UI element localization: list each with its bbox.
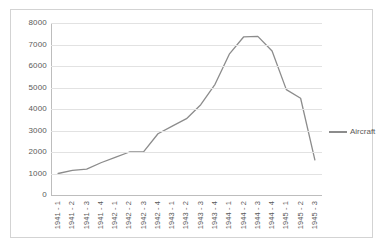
x-tick-label: 1942 - 3 (140, 201, 148, 229)
x-tick-label: 1941 - 1 (54, 201, 62, 229)
gridline-5000 (51, 88, 322, 89)
x-tick-label: 1941 - 3 (83, 201, 91, 229)
x-axis-tick-labels: 1941 - 11941 - 21941 - 31941 - 41942 - 1… (51, 199, 322, 247)
x-tick-label: 1941 - 4 (97, 201, 105, 229)
gridline-0 (51, 195, 322, 196)
y-tick-label-5000: 5000 (28, 84, 47, 92)
x-tick-8: 1943 - 1 (165, 199, 179, 245)
gridline-2000 (51, 152, 322, 153)
gridline-3000 (51, 131, 322, 132)
x-tick-16: 1945 - 1 (279, 199, 293, 245)
x-tick-0: 1941 - 1 (51, 199, 65, 245)
x-tick-7: 1942 - 4 (151, 199, 165, 245)
x-tick-10: 1943 - 3 (194, 199, 208, 245)
x-tick-2: 1941 - 3 (80, 199, 94, 245)
legend-label-aircraft: Aircraft (350, 128, 375, 136)
x-tick-15: 1944 - 4 (265, 199, 279, 245)
y-tick-label-0: 0 (42, 191, 47, 199)
y-tick-label-4000: 4000 (28, 105, 47, 113)
x-tick-label: 1943 - 3 (197, 201, 205, 229)
x-tick-label: 1945 - 2 (297, 201, 305, 229)
y-tick-label-8000: 8000 (28, 19, 47, 27)
y-tick-label-7000: 7000 (28, 41, 47, 49)
gridline-1000 (51, 174, 322, 175)
x-tick-label: 1944 - 4 (268, 201, 276, 229)
x-tick-9: 1943 - 2 (179, 199, 193, 245)
y-tick-label-6000: 6000 (28, 62, 47, 70)
x-tick-label: 1945 - 3 (311, 201, 319, 229)
x-tick-1: 1941 - 2 (65, 199, 79, 245)
x-tick-12: 1944 - 1 (222, 199, 236, 245)
x-tick-3: 1941 - 4 (94, 199, 108, 245)
x-tick-11: 1943 - 4 (208, 199, 222, 245)
x-tick-label: 1942 - 2 (126, 201, 134, 229)
legend-line-swatch-aircraft (329, 131, 347, 133)
y-tick-label-3000: 3000 (28, 127, 47, 135)
x-tick-label: 1944 - 1 (226, 201, 234, 229)
chart-legend: Aircraft (329, 128, 375, 136)
gridline-7000 (51, 45, 322, 46)
x-tick-label: 1943 - 1 (168, 201, 176, 229)
gridline-8000 (51, 23, 322, 24)
y-axis-tick-labels: 010002000300040005000600070008000 (11, 23, 47, 195)
x-tick-label: 1941 - 2 (69, 201, 77, 229)
gridline-6000 (51, 66, 322, 67)
y-tick-label-2000: 2000 (28, 148, 47, 156)
gridline-4000 (51, 109, 322, 110)
x-tick-5: 1942 - 2 (122, 199, 136, 245)
chart-container: 010002000300040005000600070008000 1941 -… (10, 9, 373, 238)
x-tick-label: 1944 - 3 (254, 201, 262, 229)
x-tick-label: 1945 - 1 (283, 201, 291, 229)
x-tick-13: 1944 - 2 (236, 199, 250, 245)
x-tick-label: 1942 - 1 (111, 201, 119, 229)
x-tick-18: 1945 - 3 (308, 199, 322, 245)
x-tick-6: 1942 - 3 (137, 199, 151, 245)
y-tick-label-1000: 1000 (28, 170, 47, 178)
x-tick-label: 1944 - 2 (240, 201, 248, 229)
x-tick-4: 1942 - 1 (108, 199, 122, 245)
x-tick-17: 1945 - 2 (293, 199, 307, 245)
x-tick-label: 1942 - 4 (154, 201, 162, 229)
plot-area (51, 23, 322, 195)
x-tick-label: 1943 - 4 (211, 201, 219, 229)
x-tick-label: 1943 - 2 (183, 201, 191, 229)
x-tick-14: 1944 - 3 (251, 199, 265, 245)
